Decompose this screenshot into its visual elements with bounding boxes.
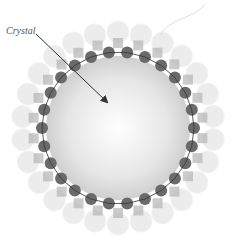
- diagram-canvas: [0, 0, 236, 242]
- tail-strand: [160, 5, 205, 35]
- crystal-diagram: Crystal: [0, 0, 236, 242]
- crystal-label: Crystal: [6, 25, 35, 36]
- crystal-sphere: [46, 56, 190, 200]
